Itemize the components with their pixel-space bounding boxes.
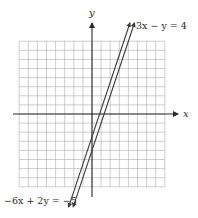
coordinate-plane: x y 3x − y = 4 −6x + 2y = −5: [0, 0, 198, 218]
equation-label-2: −6x + 2y = −5: [4, 195, 77, 206]
equation-label-1: 3x − y = 4: [136, 20, 187, 31]
y-axis-label: y: [88, 7, 95, 18]
x-axis-label: x: [183, 108, 189, 119]
